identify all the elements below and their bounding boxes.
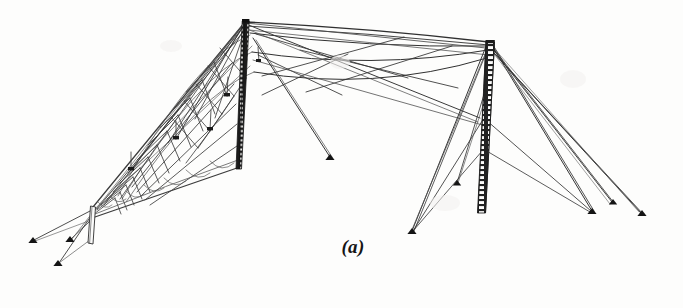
figure-container: (a) [0, 0, 683, 308]
antenna-structure-drawing [0, 0, 683, 308]
paper-background [0, 0, 683, 308]
